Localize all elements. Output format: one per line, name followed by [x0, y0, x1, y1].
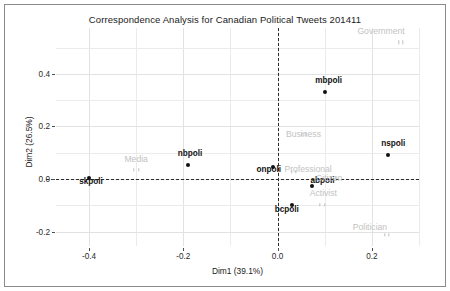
x-tick-mark	[278, 248, 279, 251]
point-label: Business	[286, 129, 321, 139]
gridline-y-minor	[56, 100, 419, 101]
gridline-x-minor	[419, 28, 420, 246]
point-marker	[384, 233, 389, 236]
point-marker	[320, 203, 325, 206]
gridline-y-minor	[56, 153, 419, 154]
gridline-x-minor	[136, 28, 137, 246]
x-tick-mark	[372, 248, 373, 251]
gridline-x-minor	[230, 28, 231, 246]
gridline-y-minor	[56, 205, 419, 206]
point-marker	[398, 41, 403, 44]
x-tick-label: -0.4	[82, 252, 96, 261]
point-label: Politician	[353, 222, 387, 232]
y-tick-mark	[52, 232, 55, 233]
point-label: mbpoli	[315, 76, 342, 85]
point-label: Activist	[310, 188, 337, 198]
x-tick-label: 0.2	[366, 252, 377, 261]
x-tick-mark	[183, 248, 184, 251]
point-label: Media	[124, 154, 147, 164]
y-tick-mark	[52, 74, 55, 75]
x-axis-label: Dim1 (39.1%)	[56, 266, 419, 276]
point-label: skpoli	[79, 177, 103, 186]
point-label: onpoli	[257, 165, 282, 174]
x-tick-mark	[89, 248, 90, 251]
y-tick-label: -0.2	[22, 227, 50, 236]
x-tick-label: 0.0	[272, 252, 283, 261]
gridline-x	[89, 28, 90, 246]
gridline-y-minor	[56, 48, 419, 49]
gridline-y	[56, 126, 419, 127]
chart-title: Correspondence Analysis for Canadian Pol…	[0, 14, 450, 25]
x-tick-label: -0.2	[176, 252, 190, 261]
point-marker	[386, 153, 390, 157]
y-axis-label: Dim2 (26.5%)	[24, 72, 34, 212]
point-marker	[323, 90, 327, 94]
point-label: nbpoli	[178, 149, 203, 158]
plot-panel: skpolinbpolionpolimbpolinspoliabpolibcpo…	[56, 28, 419, 246]
gridline-x	[183, 28, 184, 246]
gridline-x	[372, 28, 373, 246]
point-label: Government	[357, 26, 404, 36]
gridline-y	[56, 74, 419, 75]
correspondence-analysis-figure: Correspondence Analysis for Canadian Pol…	[0, 0, 450, 291]
point-marker	[186, 163, 190, 167]
gridline-x-minor	[325, 28, 326, 246]
point-label: nspoli	[381, 139, 405, 148]
point-label: Citizen	[316, 173, 342, 183]
point-label: bcpoli	[275, 205, 299, 214]
point-marker	[133, 168, 138, 171]
y-tick-mark	[52, 179, 55, 180]
y-tick-mark	[52, 126, 55, 127]
